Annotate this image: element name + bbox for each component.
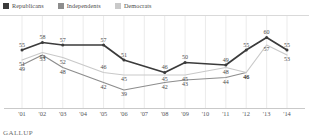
- x-tick-02: '02: [39, 110, 47, 117]
- data-label-independents: 49: [19, 66, 25, 72]
- data-point-republicans: [184, 61, 187, 64]
- data-label-democrats: 45: [162, 76, 168, 82]
- data-label-republicans: 46: [162, 64, 168, 70]
- x-tick-10: '10: [202, 110, 210, 117]
- data-label-republicans: 60: [264, 29, 270, 35]
- legend-swatch-independents: [58, 3, 64, 9]
- x-tick-01: '01: [18, 110, 26, 117]
- data-label-independents: 39: [121, 91, 127, 97]
- series-line-independents: [22, 55, 246, 90]
- data-label-republicans: 50: [182, 54, 188, 60]
- data-label-democrats: 48: [223, 69, 229, 75]
- legend-swatch-republicans: [3, 3, 9, 9]
- data-label-independents: 43: [182, 81, 188, 87]
- data-point-republicans: [122, 59, 125, 62]
- chart-root: Republicans Independents Democrats 55585…: [0, 0, 309, 140]
- x-tick-12: '12: [242, 110, 250, 117]
- data-point-republicans: [163, 71, 166, 74]
- data-point-republicans: [21, 49, 24, 52]
- legend-item-democrats: Democrats: [115, 2, 152, 9]
- data-label-republicans: 55: [243, 42, 249, 48]
- x-tick-08: '08: [161, 110, 169, 117]
- data-point-republicans: [245, 49, 248, 52]
- legend-label-independents: Independents: [67, 2, 101, 9]
- legend-label-democrats: Democrats: [124, 2, 152, 9]
- data-label-democrats: 57: [264, 46, 270, 52]
- legend-swatch-democrats: [115, 3, 121, 9]
- gallup-logo: GALLUP: [3, 129, 33, 137]
- data-label-independents: 48: [60, 69, 66, 75]
- data-label-republicans: 51: [121, 52, 127, 58]
- data-label-independents: 44: [223, 79, 229, 85]
- data-label-independents: 42: [101, 84, 107, 90]
- data-label-republicans: 49: [223, 57, 229, 63]
- data-label-independents: 53: [39, 56, 45, 62]
- data-point-republicans: [102, 44, 105, 47]
- data-label-democrats: 53: [284, 56, 290, 62]
- data-point-republicans: [265, 36, 268, 39]
- line-chart-svg: 5558575751465049556055515452464545454846…: [0, 16, 309, 108]
- data-point-republicans: [286, 49, 289, 52]
- data-label-independents: 42: [162, 84, 168, 90]
- data-point-republicans: [224, 64, 227, 67]
- legend-item-republicans: Republicans: [3, 2, 44, 9]
- plot-area: 5558575751465049556055515452464545454846…: [0, 16, 309, 108]
- x-tick-06: '06: [120, 110, 128, 117]
- x-tick-04: '04: [79, 110, 87, 117]
- x-tick-11: '11: [222, 110, 229, 117]
- x-tick-07: '07: [141, 110, 149, 117]
- data-label-democrats: 46: [101, 64, 107, 70]
- data-label-independents: 46: [243, 74, 249, 80]
- x-axis-line: [4, 108, 305, 109]
- data-label-republicans: 55: [19, 42, 25, 48]
- data-point-republicans: [41, 41, 44, 44]
- data-label-republicans: 55: [284, 42, 290, 48]
- x-tick-03: '03: [59, 110, 67, 117]
- data-label-democrats: 45: [121, 76, 127, 82]
- data-label-republicans: 58: [39, 34, 45, 40]
- x-tick-05: '05: [100, 110, 108, 117]
- data-label-republicans: 57: [101, 37, 107, 43]
- data-label-democrats: 52: [60, 59, 66, 65]
- x-tick-14: '14: [283, 110, 291, 117]
- chart-legend: Republicans Independents Democrats: [3, 2, 152, 9]
- data-point-republicans: [61, 44, 64, 47]
- data-label-republicans: 57: [60, 37, 66, 43]
- x-tick-09: '09: [181, 110, 189, 117]
- legend-item-independents: Independents: [58, 2, 101, 9]
- legend-label-republicans: Republicans: [12, 2, 44, 9]
- x-tick-13: '13: [263, 110, 271, 117]
- x-axis-labels: '01'02'03'04'05'06'07'08'09'10'11'12'13'…: [0, 110, 309, 124]
